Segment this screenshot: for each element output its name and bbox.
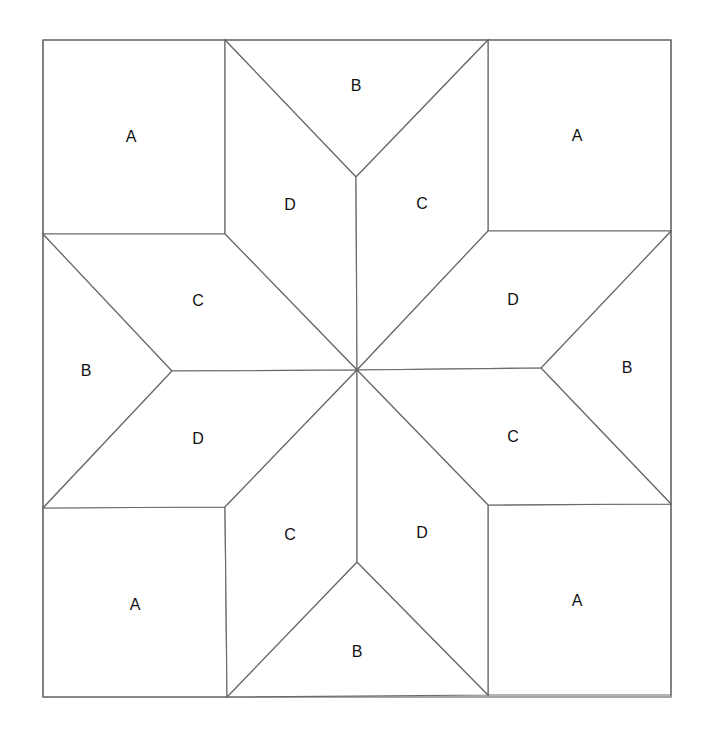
piece-label-diamond-right-bottom: C bbox=[507, 428, 519, 445]
quilt-block-diagram: AAAABBBBDCCDDCCD bbox=[0, 0, 713, 739]
piece-label-corner-top-right: A bbox=[572, 127, 583, 144]
piece-label-diamond-bottom-right: D bbox=[416, 524, 428, 541]
piece-label-diamond-bottom-left: C bbox=[284, 526, 296, 543]
piece-label-triangle-right: B bbox=[622, 359, 633, 376]
piece-label-corner-top-left: A bbox=[126, 128, 137, 145]
piece-label-triangle-bottom: B bbox=[352, 643, 363, 660]
piece-label-diamond-left-bottom: D bbox=[192, 430, 204, 447]
piece-label-corner-bottom-right: A bbox=[572, 592, 583, 609]
piece-label-triangle-left: B bbox=[81, 362, 92, 379]
piece-label-diamond-left-top: C bbox=[192, 292, 204, 309]
piece-label-corner-bottom-left: A bbox=[130, 596, 141, 613]
piece-label-diamond-top-left: D bbox=[284, 196, 296, 213]
piece-label-diamond-top-right: C bbox=[416, 195, 428, 212]
piece-label-triangle-top: B bbox=[351, 77, 362, 94]
piece-label-diamond-right-top: D bbox=[507, 291, 519, 308]
